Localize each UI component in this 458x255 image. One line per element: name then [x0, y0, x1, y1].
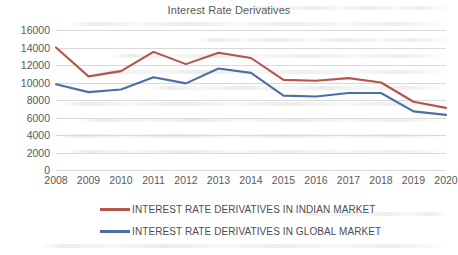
gridline [56, 170, 446, 171]
line-chart: Interest Rate Derivatives 02000400060008… [0, 0, 458, 255]
y-axis-tick-label: 12000 [0, 59, 50, 71]
y-axis-tick-label: 6000 [0, 112, 50, 124]
y-axis-tick-label: 8000 [0, 94, 50, 106]
x-axis-tick-label: 2018 [369, 174, 392, 186]
x-axis-tick-label: 2015 [272, 174, 295, 186]
series-line [56, 48, 446, 108]
y-axis-tick-label: 16000 [0, 24, 50, 36]
x-axis-tick-label: 2016 [304, 174, 327, 186]
x-axis-tick-label: 2017 [337, 174, 360, 186]
x-axis-tick-label: 2019 [402, 174, 425, 186]
chart-legend: INTEREST RATE DERIVATIVES IN INDIAN MARK… [0, 198, 458, 242]
x-axis-tick-label: 2013 [207, 174, 230, 186]
x-axis-tick-label: 2011 [142, 174, 165, 186]
y-axis: 0200040006000800010000120001400016000 [0, 30, 50, 170]
x-axis-tick-label: 2020 [434, 174, 457, 186]
x-axis-tick-label: 2009 [77, 174, 100, 186]
y-axis-tick-label: 2000 [0, 147, 50, 159]
y-axis-tick-label: 0 [0, 164, 50, 176]
legend-item-label: INTEREST RATE DERIVATIVES IN GLOBAL MARK… [132, 226, 381, 237]
x-axis: 2008200920102011201220132014201520162017… [56, 174, 446, 190]
y-axis-tick-label: 14000 [0, 42, 50, 54]
x-axis-tick-label: 2010 [109, 174, 132, 186]
x-axis-tick-label: 2012 [174, 174, 197, 186]
legend-item-label: INTEREST RATE DERIVATIVES IN INDIAN MARK… [132, 204, 376, 215]
x-axis-tick-label: 2008 [44, 174, 67, 186]
y-axis-tick-label: 4000 [0, 129, 50, 141]
plot-area [56, 30, 446, 170]
legend-color-swatch [100, 230, 130, 233]
legend-color-swatch [100, 208, 130, 211]
chart-title: Interest Rate Derivatives [0, 4, 458, 16]
x-axis-tick-label: 2014 [239, 174, 262, 186]
legend-item[interactable]: INTEREST RATE DERIVATIVES IN INDIAN MARK… [0, 198, 458, 220]
series-line [56, 69, 446, 115]
y-axis-tick-label: 10000 [0, 77, 50, 89]
legend-item[interactable]: INTEREST RATE DERIVATIVES IN GLOBAL MARK… [0, 220, 458, 242]
series-lines [56, 30, 446, 170]
